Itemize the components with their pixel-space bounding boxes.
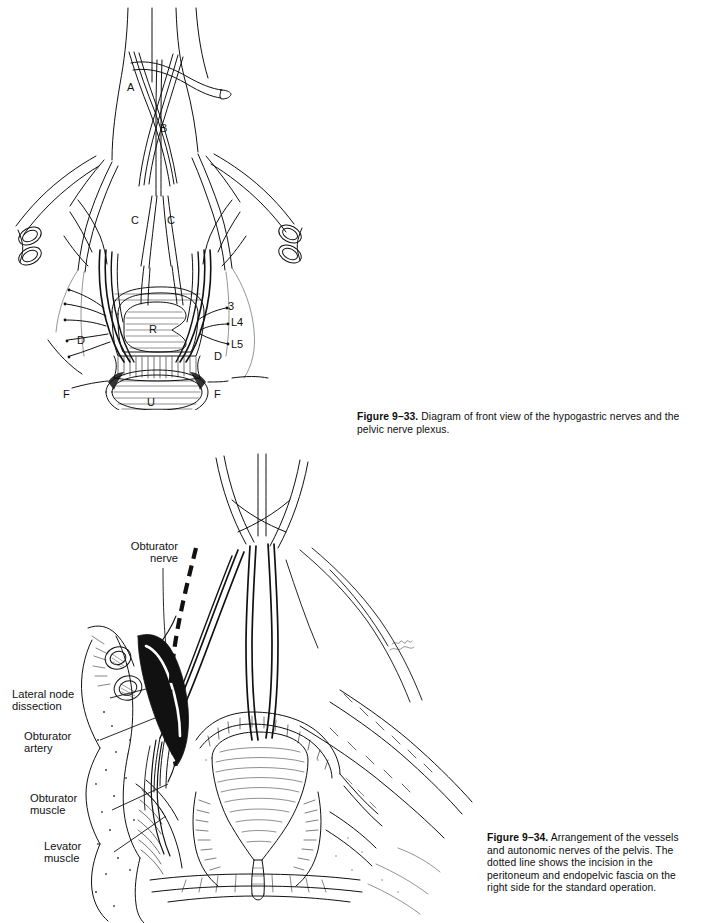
label-R-rectum: R — [149, 323, 157, 335]
label-B: B — [160, 122, 167, 134]
label-obturator-muscle: Obturator muscle — [30, 792, 106, 817]
label-obturator-artery: Obturator artery — [24, 730, 104, 755]
label-U-uterus: U — [147, 396, 155, 408]
label-C-left: C — [131, 214, 139, 226]
label-levator-muscle: Levator muscle — [44, 840, 110, 865]
label-C-right: C — [167, 214, 175, 226]
label-A: A — [127, 81, 134, 93]
label-3: 3 — [228, 300, 234, 312]
figure-9-34-number: Figure 9–34. — [487, 832, 548, 843]
label-L5: L5 — [231, 338, 243, 350]
label-lateral-node-dissection: Lateral node dissection — [12, 688, 104, 713]
textbook-page: A B C C D D F F R U 3 L4 L5 — [0, 0, 704, 923]
label-D-right: D — [214, 350, 222, 362]
figure-9-33-number: Figure 9–33. — [357, 411, 418, 422]
figure-9-34: Obturator nerve Lateral node dissection … — [0, 440, 490, 923]
label-F-right: F — [214, 388, 221, 400]
figure-9-34-caption: Figure 9–34. Arrangement of the vessels … — [487, 832, 699, 895]
figure-9-33: A B C C D D F F R U 3 L4 L5 — [0, 0, 360, 410]
label-D-left: D — [77, 334, 85, 346]
label-obturator-nerve: Obturator nerve — [96, 540, 178, 565]
label-F-left: F — [63, 388, 70, 400]
figure-9-33-artwork — [0, 0, 360, 410]
figure-9-33-caption: Figure 9–33. Diagram of front view of th… — [357, 411, 687, 436]
label-L4: L4 — [231, 316, 243, 328]
